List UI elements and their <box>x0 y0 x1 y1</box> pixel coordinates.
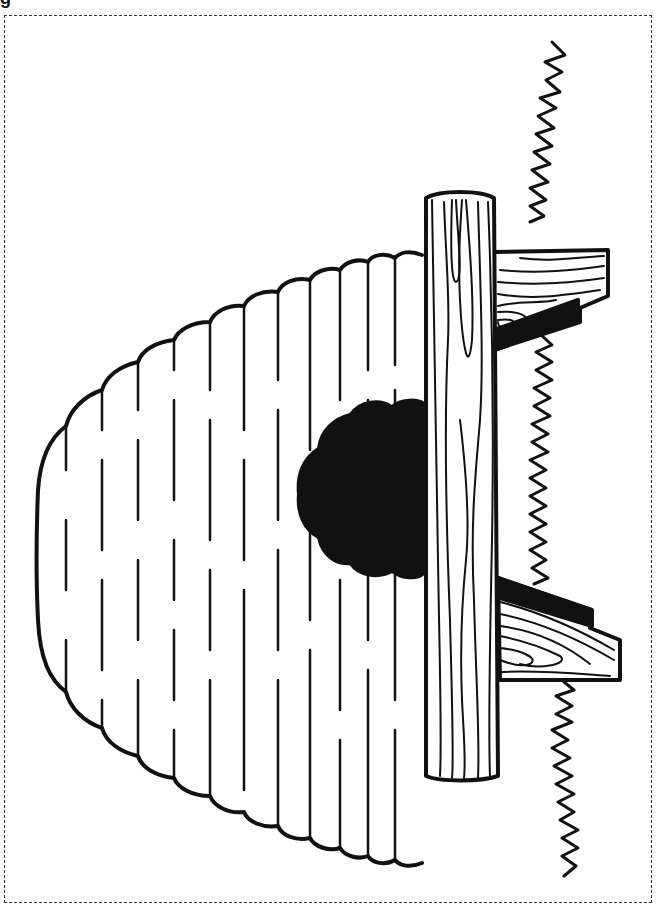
log-beam <box>426 192 498 781</box>
grass-line <box>530 42 578 876</box>
beehive-illustration <box>0 0 658 912</box>
wooden-support-bottom <box>498 578 620 680</box>
wooden-support-top <box>494 250 608 350</box>
